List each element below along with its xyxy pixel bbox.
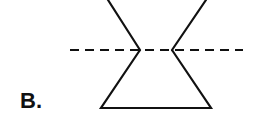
lower-trapezoid-outline [101, 50, 211, 108]
figure-label: B. [20, 90, 42, 112]
upper-right-line [172, 0, 206, 50]
diagram-figure: B. [0, 0, 254, 117]
upper-left-line [108, 0, 140, 50]
